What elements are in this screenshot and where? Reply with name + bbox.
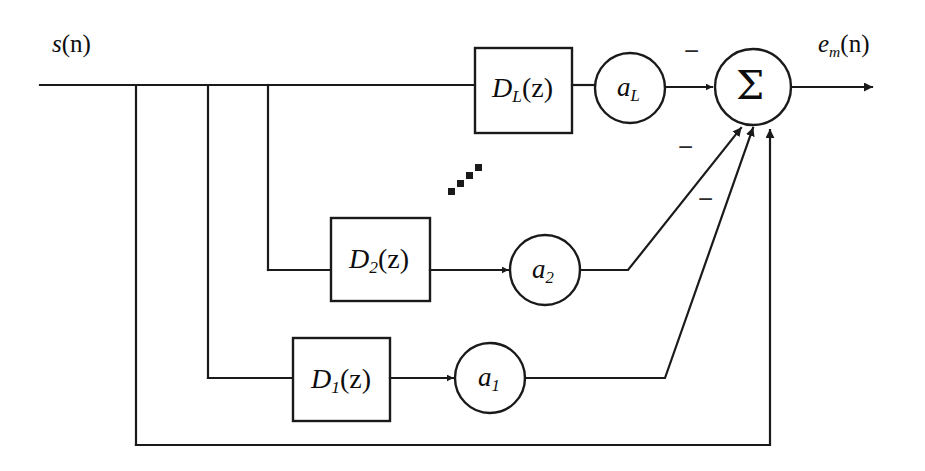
wire-feedback-to-sum <box>136 130 770 445</box>
ellipsis-dot <box>475 164 482 171</box>
block-D1-base: D <box>311 363 331 394</box>
gain-a1-label: a1 <box>478 362 500 396</box>
block-DL-subscript: L <box>512 87 522 106</box>
output-signal-label: em(n) <box>818 30 869 61</box>
block-D2-label: D2(z) <box>349 243 409 278</box>
block-D1-label: D1(z) <box>311 363 371 398</box>
input-signal-base: s <box>52 30 62 57</box>
block-diagram-figure: s(n) em(n) DL(z) D2(z) D1(z) aL a2 a1 Σ … <box>0 0 925 471</box>
ellipsis-dot <box>457 180 464 187</box>
minus-sign-a1: − <box>698 184 713 215</box>
input-signal-arg: (n) <box>62 30 91 57</box>
block-D2-subscript: 2 <box>369 258 378 277</box>
gain-a2-base: a <box>532 254 546 284</box>
block-DL-arg: (z) <box>522 72 553 103</box>
ellipsis-dot <box>448 188 455 195</box>
minus-sign-aL: − <box>684 36 699 67</box>
gain-a2-label: a2 <box>532 254 554 288</box>
summation-symbol: Σ <box>736 62 764 108</box>
block-D1-arg: (z) <box>340 363 371 394</box>
gain-a2-subscript: 2 <box>546 268 554 287</box>
output-signal-base: e <box>818 30 829 57</box>
gain-aL-subscript: L <box>631 86 640 105</box>
gain-a1-base: a <box>478 362 492 392</box>
ellipsis-dot <box>466 172 473 179</box>
block-D1-subscript: 1 <box>331 378 340 397</box>
output-signal-subscript: m <box>829 43 840 60</box>
output-signal-arg: (n) <box>840 30 869 57</box>
block-DL-label: DL(z) <box>492 72 553 107</box>
block-D2-arg: (z) <box>378 243 409 274</box>
diagram-canvas <box>0 0 925 471</box>
gain-a1-subscript: 1 <box>492 376 500 395</box>
input-signal-label: s(n) <box>52 30 91 58</box>
block-DL-base: D <box>492 72 512 103</box>
wire-a2-to-sum <box>580 128 741 270</box>
gain-aL-base: a <box>617 72 631 102</box>
gain-aL-label: aL <box>617 72 640 106</box>
minus-sign-a2: − <box>678 132 693 163</box>
block-D2-base: D <box>349 243 369 274</box>
